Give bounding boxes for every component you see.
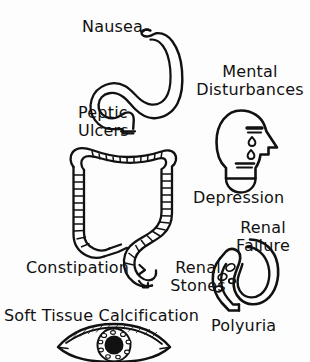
label-peptic-ulcers-line2: Ulcers xyxy=(78,121,129,140)
label-mental-line1: Mental xyxy=(222,62,278,81)
head-profile-icon xyxy=(217,111,278,193)
label-renal-failure-line1: Renal xyxy=(240,218,286,237)
label-renal-stones-line2: Stones xyxy=(170,276,226,295)
label-peptic-ulcers: PepticUlcers xyxy=(78,104,129,140)
label-renal-failure-line2: Failure xyxy=(236,236,290,255)
label-nausea: Nausea xyxy=(82,18,143,36)
label-constipation: Constipation xyxy=(26,259,129,277)
label-renal-stones: RenalStones xyxy=(163,259,233,295)
label-depression: Depression xyxy=(193,189,284,207)
label-soft-tissue-calcification: Soft Tissue Calcification xyxy=(4,307,199,325)
label-polyuria: Polyuria xyxy=(211,317,276,335)
eye-icon xyxy=(58,324,170,362)
label-peptic-ulcers-line1: Peptic xyxy=(78,103,128,122)
label-mental-line2: Disturbances xyxy=(196,80,304,99)
label-renal-stones-line1: Renal xyxy=(175,258,221,277)
label-mental-disturbances: MentalDisturbances xyxy=(192,63,308,99)
label-renal-failure: RenalFailure xyxy=(222,219,304,255)
